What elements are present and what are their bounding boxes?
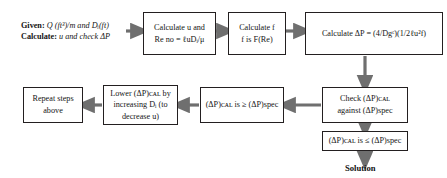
node-line: Calculate f — [239, 22, 275, 34]
node-pressure-drop-ge-spec[interactable]: (ΔP)ᴄᴀʟ is ≥ (ΔP)spec — [200, 87, 284, 123]
node-line: increasing Dᵢ (to — [113, 99, 167, 111]
node-line: Lower (ΔP)ᴄᴀʟ by — [110, 88, 170, 100]
node-line: Calculate u and — [154, 22, 205, 34]
intro-given-label: Given: — [21, 21, 45, 30]
node-line: Calculate ΔP = (4/Dgᶜ)(1/2ℓu²f) — [322, 28, 426, 40]
node-line: Repeat steps — [32, 93, 73, 105]
intro-given-text: Q (ft³)/m and Dᵢ(ft) — [47, 21, 109, 30]
node-line: above — [43, 105, 63, 117]
node-line: against (ΔP)spec — [337, 105, 392, 117]
result-label-solution: Solution — [345, 163, 376, 173]
intro-calculate-text: u and check ΔP — [59, 32, 110, 41]
flowchart-canvas: Given: Q (ft³)/m and Dᵢ(ft) Calculate: u… — [0, 0, 447, 178]
node-line: Check (ΔP)ᴄᴀʟ — [340, 93, 390, 105]
node-lower-pressure-drop[interactable]: Lower (ΔP)ᴄᴀʟ by increasing Dᵢ (to decre… — [103, 85, 178, 125]
node-line: f is F(Re) — [241, 34, 272, 46]
node-line: (ΔP)ᴄᴀʟ is ≥ (ΔP)spec — [206, 99, 279, 111]
intro-calculate-line: Calculate: u and check ΔP — [21, 31, 110, 43]
node-calculate-pressure-drop[interactable]: Calculate ΔP = (4/Dgᶜ)(1/2ℓu²f) — [305, 12, 443, 55]
node-line: (ΔP)ᴄᴀʟ is ≤ (ΔP)spec — [329, 135, 402, 147]
node-repeat-steps[interactable]: Repeat steps above — [23, 87, 83, 123]
intro-calculate-label: Calculate: — [21, 32, 57, 41]
node-check-pressure-drop[interactable]: Check (ΔP)ᴄᴀʟ against (ΔP)spec — [322, 87, 408, 123]
node-calculate-u-reynolds[interactable]: Calculate u and Re no = ℓuDᵢ/μ — [143, 12, 216, 55]
node-line: Re no = ℓuDᵢ/μ — [155, 34, 205, 46]
node-calculate-friction-factor[interactable]: Calculate f f is F(Re) — [228, 12, 286, 55]
node-pressure-drop-le-spec[interactable]: (ΔP)ᴄᴀʟ is ≤ (ΔP)spec — [322, 131, 408, 151]
node-line: decrease u) — [122, 111, 159, 123]
